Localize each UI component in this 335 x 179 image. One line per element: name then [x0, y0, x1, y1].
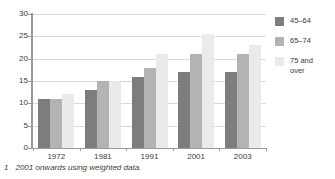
legend-item-label: 45–64 — [290, 16, 335, 26]
x-tick-label: 1991 — [128, 152, 172, 161]
y-tick-mark — [28, 14, 32, 15]
bar-group — [178, 14, 214, 148]
y-tick-mark — [28, 59, 32, 60]
legend-item[interactable]: 65–74 — [275, 36, 335, 47]
x-tick-mark — [266, 148, 267, 151]
x-tick-label: 2003 — [221, 152, 265, 161]
bar — [85, 90, 97, 148]
bar — [132, 77, 144, 148]
y-tick-mark — [28, 126, 32, 127]
bar — [225, 72, 237, 148]
legend-item[interactable]: 45–64 — [275, 16, 335, 27]
footnote-marker: 1 — [4, 163, 8, 172]
legend-item[interactable]: 75 and over — [275, 56, 335, 75]
legend-item-label: 65–74 — [290, 36, 335, 46]
bar — [202, 34, 214, 148]
bar — [38, 99, 50, 148]
bar — [237, 54, 249, 148]
bar — [50, 99, 62, 148]
y-tick-label: 15 — [6, 77, 28, 85]
bar-group — [38, 14, 74, 148]
bar — [144, 68, 156, 148]
chart-legend: 45–6465–7475 and over — [275, 16, 335, 84]
bar — [190, 54, 202, 148]
plot-area — [33, 14, 266, 148]
legend-item-label: 75 and over — [290, 56, 335, 75]
y-tick-mark — [28, 103, 32, 104]
y-tick-label: 30 — [6, 10, 28, 18]
x-axis-line — [31, 148, 267, 149]
bar — [249, 45, 261, 148]
y-tick-label: 0 — [6, 144, 28, 152]
x-tick-mark — [219, 148, 220, 151]
x-tick-mark — [80, 148, 81, 151]
bar-group — [132, 14, 168, 148]
y-tick-mark — [28, 148, 32, 149]
bar — [97, 81, 109, 148]
chart-footnote: 12001 onwards using weighted data. — [4, 163, 141, 173]
bar — [178, 72, 190, 148]
bar — [62, 94, 74, 148]
y-axis-labels: 302520151050 — [0, 0, 28, 179]
bar-group — [225, 14, 261, 148]
footnote-text: 2001 onwards using weighted data. — [15, 163, 141, 172]
y-tick-label: 5 — [6, 122, 28, 130]
x-tick-label: 1981 — [81, 152, 125, 161]
legend-swatch-icon — [275, 37, 284, 46]
bar-group — [85, 14, 121, 148]
x-tick-mark — [33, 148, 34, 151]
legend-swatch-icon — [275, 57, 284, 66]
bar — [156, 54, 168, 148]
y-tick-mark — [28, 81, 32, 82]
x-tick-mark — [173, 148, 174, 151]
x-tick-mark — [126, 148, 127, 151]
y-tick-label: 25 — [6, 32, 28, 40]
x-tick-label: 2001 — [174, 152, 218, 161]
legend-swatch-icon — [275, 17, 284, 26]
y-tick-mark — [28, 36, 32, 37]
y-tick-label: 20 — [6, 55, 28, 63]
bar-chart-figure: 302520151050 19721981199120012003 45–646… — [0, 0, 335, 179]
bar — [109, 81, 121, 148]
x-tick-label: 1972 — [34, 152, 78, 161]
y-tick-label: 10 — [6, 99, 28, 107]
